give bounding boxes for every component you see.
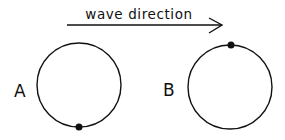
wave-diagram: wave direction A B [0, 0, 285, 140]
circle-b-label: B [163, 80, 175, 100]
circle-b-outline [188, 45, 272, 129]
arrow-label: wave direction [85, 6, 192, 22]
circle-b-dot [228, 42, 235, 49]
circle-a-label: A [14, 81, 26, 101]
circle-a: A [14, 43, 121, 131]
circle-a-outline [37, 43, 121, 127]
circle-b: B [163, 42, 272, 130]
circle-a-dot [76, 124, 83, 131]
